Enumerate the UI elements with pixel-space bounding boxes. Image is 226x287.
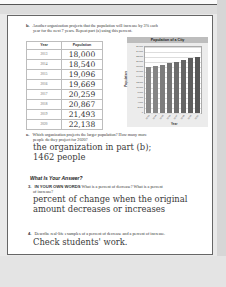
year-cell: 2019: [27, 109, 62, 119]
bar-2017: [174, 62, 179, 113]
table-row: 202022,138: [27, 119, 103, 129]
bar-2019: [188, 58, 193, 113]
y-tick-label: 6,000: [130, 96, 143, 98]
y-tick-label: 0: [130, 111, 143, 113]
y-tick-label: 20,000: [130, 60, 143, 62]
x-tick-label: 2017: [173, 114, 177, 119]
x-tick-label: 2020: [194, 114, 198, 119]
y-tick-label: 2,000: [130, 106, 143, 108]
page-gap: [0, 5, 226, 14]
table-row: 201820,867: [27, 99, 103, 109]
gridline: [145, 47, 201, 48]
problem-c-number: c.: [26, 132, 30, 137]
year-cell: 2016: [27, 79, 62, 89]
y-tick-label: 26,000: [130, 45, 143, 47]
x-tick-label: 2015: [159, 114, 163, 119]
bar-2014: [153, 66, 158, 113]
table-row: 201418,540: [27, 59, 103, 69]
table-row: 201619,669: [27, 79, 103, 89]
gridline: [145, 113, 201, 114]
population-cell: 21,493: [62, 109, 103, 119]
scrollbar-gutter[interactable]: [217, 0, 226, 287]
year-cell: 2020: [27, 119, 62, 129]
problem-3-answer-line2: amount decreases or increases: [33, 204, 165, 214]
problem-4-text: Describe real-life examples of a percent…: [35, 231, 166, 236]
x-tick-label: 2019: [187, 114, 191, 119]
x-tick-label: 2014: [152, 114, 156, 119]
population-cell: 20,867: [62, 99, 103, 109]
population-cell: 19,669: [62, 79, 103, 89]
chart-x-axis-label: Year: [171, 122, 177, 126]
table-row: 201720,259: [27, 89, 103, 99]
bar-2018: [181, 60, 186, 113]
bar-2016: [167, 63, 172, 113]
problem-4-answer: Check students' work.: [33, 237, 128, 247]
page-gap-bottom: [0, 256, 226, 287]
table-header-row: Year Population: [27, 42, 103, 50]
problem-4-prompt: 4. Describe real-life examples of a perc…: [28, 231, 165, 236]
x-tick-label: 2016: [166, 114, 170, 119]
year-cell: 2018: [27, 99, 62, 109]
y-tick-label: 18,000: [130, 65, 143, 67]
y-tick-label: 10,000: [130, 86, 143, 88]
x-tick-label: 2018: [180, 114, 184, 119]
year-cell: 2017: [27, 89, 62, 99]
year-cell: 2013: [27, 49, 62, 59]
table-row: 201519,096: [27, 69, 103, 79]
problem-b-number: b.: [26, 23, 30, 28]
bar-2013: [146, 67, 151, 113]
y-tick-label: 12,000: [130, 81, 143, 83]
y-tick-label: 4,000: [130, 101, 143, 103]
population-cell: 20,259: [62, 89, 103, 99]
population-table: Year Population 201318,000 201418,540 20…: [26, 41, 103, 130]
gridline: [145, 52, 201, 53]
chart-y-axis-label: Population: [124, 71, 128, 87]
problem-b-line2: year for the next 7 years. Repeat part (…: [33, 28, 132, 33]
bar-2020: [195, 57, 200, 113]
population-cell: 22,138: [62, 119, 103, 129]
header-population: Population: [62, 42, 103, 50]
chart-title: Population of a City: [127, 37, 208, 43]
population-cell: 19,096: [62, 69, 103, 79]
x-tick-label: 2013: [145, 114, 149, 119]
population-bar-chart: Population of a City Population 26,00024…: [127, 37, 208, 127]
section-heading: What Is Your Answer?: [30, 175, 83, 181]
problem-4-number: 4.: [28, 231, 32, 236]
problem-3-number: 3.: [28, 184, 32, 189]
y-tick-label: 14,000: [130, 75, 143, 77]
year-cell: 2015: [27, 69, 62, 79]
y-tick-label: 8,000: [130, 91, 143, 93]
problem-c-answer-line1: the organization in part (b);: [33, 142, 151, 152]
problem-c-answer-line2: 1462 people: [33, 152, 85, 162]
table-row: 201921,493: [27, 109, 103, 119]
problem-3-answer-line1: percent of change when the original: [33, 194, 187, 204]
table-row: 201318,000: [27, 49, 103, 59]
problem-b-prompt-cont: year for the next 7 years. Repeat part (…: [33, 28, 132, 33]
y-tick-label: 22,000: [130, 55, 143, 57]
bar-2015: [160, 65, 165, 113]
chart-plot-area: [144, 46, 202, 114]
y-tick-label: 24,000: [130, 50, 143, 52]
y-tick-label: 16,000: [130, 70, 143, 72]
problem-3-line1: What is a percent of decrease? What is a…: [82, 184, 163, 189]
population-cell: 18,540: [62, 59, 103, 69]
header-year: Year: [27, 42, 62, 50]
year-cell: 2014: [27, 59, 62, 69]
population-cell: 18,000: [62, 49, 103, 59]
